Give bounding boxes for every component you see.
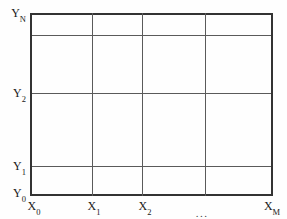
x-axis-label-x0-subscript: 0 — [36, 207, 40, 217]
y-axis-label-y0-subscript: 0 — [22, 194, 26, 204]
y-axis-label-y0-base: Y — [13, 186, 22, 200]
gridline-vertical-x0-axis — [30, 13, 32, 196]
x-axis-label-x1-base: X — [88, 199, 97, 213]
y-axis-label-y2-subscript: 2 — [22, 94, 26, 104]
gridline-vertical-x3 — [205, 13, 206, 196]
gridline-vertical-x2 — [142, 13, 143, 196]
x-axis-label-x2-base: X — [139, 199, 148, 213]
y-axis-label-y2-base: Y — [13, 86, 22, 100]
x-axis-label-xm-base: X — [264, 199, 273, 213]
x-axis-label-x1: X1 — [88, 200, 101, 215]
gridline-vertical-xm — [271, 13, 273, 196]
grid-diagram-figure: YN Y2 Y1 Y0 X0 X1 X2 ... XM — [0, 0, 287, 219]
y-axis-label-y1-subscript: 1 — [22, 167, 26, 177]
x-axis-label-xm: XM — [264, 200, 280, 215]
x-axis-label-x2-subscript: 2 — [147, 207, 151, 217]
y-axis-label-y1: Y1 — [4, 160, 26, 175]
gridline-horizontal-y0-axis — [30, 194, 273, 196]
y-axis-label-y1-base: Y — [13, 159, 22, 173]
x-axis-label-x0-base: X — [28, 199, 37, 213]
y-axis-label-yn: YN — [4, 7, 26, 22]
x-axis-label-xm-subscript: M — [273, 207, 281, 217]
x-axis-label-x2: X2 — [139, 200, 152, 215]
gridline-horizontal-y2 — [30, 93, 273, 94]
gridline-horizontal-yn — [30, 13, 273, 15]
x-axis-label-x0: X0 — [28, 200, 41, 215]
gridline-horizontal-y1 — [30, 166, 273, 167]
x-axis-label-x1-subscript: 1 — [96, 207, 100, 217]
y-axis-label-y2: Y2 — [4, 87, 26, 102]
y-axis-label-yn-base: Y — [11, 6, 20, 20]
x-axis-ellipsis: ... — [196, 207, 209, 219]
y-axis-label-yn-subscript: N — [20, 14, 26, 24]
gridline-vertical-x1 — [92, 13, 93, 196]
gridline-horizontal-upper — [30, 35, 273, 36]
y-axis-label-y0: Y0 — [4, 187, 26, 202]
